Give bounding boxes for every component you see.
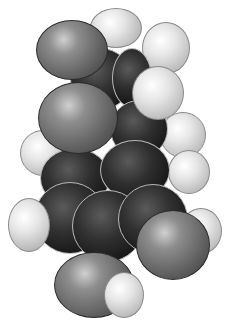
hydrogen-atom: [168, 150, 210, 194]
oxygen-atom: [38, 82, 118, 154]
hydrogen-atom: [8, 198, 50, 252]
oxygen-atom: [36, 20, 108, 80]
oxygen-atom: [136, 210, 210, 280]
hydrogen-atom: [132, 66, 184, 120]
hydrogen-atom: [104, 272, 144, 318]
